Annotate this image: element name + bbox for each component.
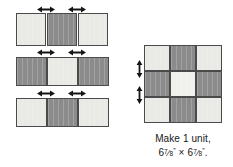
unit-cell-r1c3 <box>196 45 222 71</box>
row-3-strip <box>16 98 108 127</box>
height-inch-mark: ” <box>202 147 204 154</box>
row-1-seam-arrow-1 <box>37 6 55 13</box>
unit-cell-r2c1 <box>144 71 170 97</box>
row-3-seam-arrow-2 <box>68 90 86 97</box>
row-1-patch-1 <box>16 13 46 46</box>
unit-cell-r3c2 <box>170 97 196 123</box>
row-2-patch-2 <box>47 57 78 86</box>
row-1-patch-2 <box>47 13 77 46</box>
dimension-height: 67⁄8” <box>188 145 205 159</box>
width-inch-mark: ” <box>173 147 175 154</box>
row-2-strip <box>16 57 108 86</box>
row-2-patch-3 <box>78 57 109 86</box>
row-2-seam-arrow-2 <box>68 49 86 56</box>
row-3-patch-1 <box>16 98 47 127</box>
caption-line-1: Make 1 unit, <box>134 133 232 145</box>
row-3-seam-arrow-1 <box>37 90 55 97</box>
dimension-width: 67⁄8” <box>158 145 175 159</box>
unit-caption: Make 1 unit, 67⁄8”×67⁄8”. <box>134 133 232 159</box>
unit-seam-arrow-2 <box>136 86 143 104</box>
unit-cell-r3c3 <box>196 97 222 123</box>
row-1-strip <box>16 13 108 46</box>
unit-cell-r3c1 <box>144 97 170 123</box>
row-1-seam-arrow-2 <box>68 6 86 13</box>
row-3-patch-2 <box>47 98 78 127</box>
unit-cell-r1c1 <box>144 45 170 71</box>
nine-patch-unit <box>144 45 222 123</box>
unit-cell-r1c2 <box>170 45 196 71</box>
caption-line-2: 67⁄8”×67⁄8”. <box>134 145 232 159</box>
row-2-patch-1 <box>16 57 47 86</box>
row-2-seam-arrow-1 <box>37 49 55 56</box>
row-3-patch-3 <box>78 98 109 127</box>
unit-cell-r2c2 <box>170 71 196 97</box>
caption-period: . <box>205 147 208 158</box>
caption-times: × <box>179 147 185 158</box>
unit-seam-arrow-1 <box>136 60 143 78</box>
unit-cell-r2c3 <box>196 71 222 97</box>
row-1-patch-3 <box>78 13 108 46</box>
figure-canvas: Make 1 unit, 67⁄8”×67⁄8”. <box>0 0 233 167</box>
